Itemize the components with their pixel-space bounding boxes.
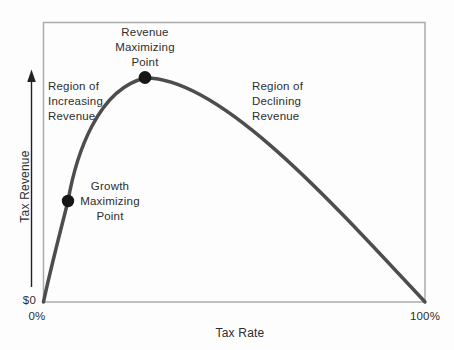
y-axis-arrowhead-icon <box>27 70 36 83</box>
growth-maximizing-line-2: Maximizing <box>60 194 160 209</box>
revenue-maximizing-point-label: Revenue Maximizing Point <box>95 25 195 70</box>
revenue-maximizing-line-1: Revenue <box>95 25 195 40</box>
x-axis-title: Tax Rate <box>190 326 290 341</box>
growth-maximizing-point-label: Growth Maximizing Point <box>60 179 160 224</box>
growth-maximizing-line-1: Growth <box>60 179 160 194</box>
region-declining-line-2: Declining <box>252 94 347 109</box>
revenue-maximizing-line-3: Point <box>95 55 195 70</box>
revenue-maximizing-line-2: Maximizing <box>95 40 195 55</box>
region-declining-line-1: Region of <box>252 79 347 94</box>
region-increasing-line-3: Revenue <box>48 109 143 124</box>
laffer-curve-figure: Revenue Maximizing Point Region of Incre… <box>0 0 454 350</box>
region-increasing-line-1: Region of <box>48 79 143 94</box>
region-increasing-revenue-label: Region of Increasing Revenue <box>48 79 143 124</box>
region-increasing-line-2: Increasing <box>48 94 143 109</box>
region-declining-revenue-label: Region of Declining Revenue <box>252 79 347 124</box>
y-axis-title: Tax Revenue <box>18 142 33 232</box>
growth-maximizing-line-3: Point <box>60 209 160 224</box>
x-axis-tick-0: 0% <box>24 309 50 324</box>
x-axis-tick-100: 100% <box>401 309 449 324</box>
region-declining-line-3: Revenue <box>252 109 347 124</box>
plot-area <box>0 0 454 350</box>
y-axis-origin-tick: $0 <box>6 293 36 308</box>
